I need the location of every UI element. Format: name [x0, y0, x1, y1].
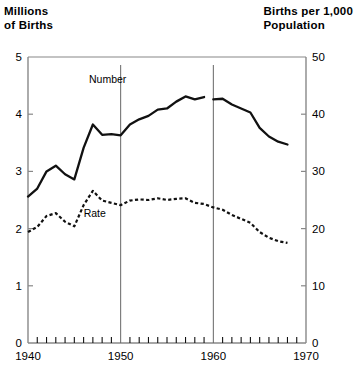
left-axis-tick-label: 3 [16, 165, 22, 177]
x-axis-tick-label: 1940 [15, 350, 41, 362]
series-line-number [28, 96, 204, 196]
x-axis-tick-label: 1970 [293, 350, 319, 362]
right-axis-tick-label: 20 [312, 223, 325, 235]
x-axis-tick-label: 1960 [201, 350, 227, 362]
data-series-layer [28, 96, 287, 242]
left-axis-tick-label: 1 [16, 280, 22, 292]
chart-container: Millions of Births Births per 1,000 Popu… [0, 0, 356, 385]
reference-lines-layer [121, 65, 214, 343]
axes-layer: 012345010203040501940195019601970 [15, 51, 325, 362]
x-axis-tick-label: 1950 [108, 350, 134, 362]
right-axis-tick-label: 50 [312, 51, 325, 63]
left-axis-tick-label: 4 [16, 108, 23, 120]
series-annotation-number: Number [89, 73, 127, 85]
right-axis-tick-label: 30 [312, 165, 325, 177]
series-annotation-rate: Rate [84, 207, 106, 219]
series-line-number [213, 99, 287, 145]
right-axis-tick-label: 10 [312, 280, 325, 292]
series-line-rate [28, 191, 287, 243]
left-axis-tick-label: 2 [16, 223, 22, 235]
left-axis-tick-label: 0 [16, 337, 22, 349]
chart-plot: 012345010203040501940195019601970 Number… [0, 0, 356, 385]
right-axis-tick-label: 40 [312, 108, 325, 120]
right-axis-tick-label: 0 [312, 337, 318, 349]
left-axis-tick-label: 5 [16, 51, 22, 63]
